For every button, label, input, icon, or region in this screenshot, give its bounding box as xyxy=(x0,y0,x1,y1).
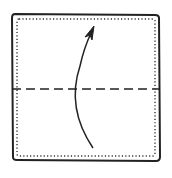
origami-diagram: Square paper with a horizontal valley-fo… xyxy=(0,0,172,178)
fold-arrow-curve xyxy=(75,33,93,148)
diagram-svg xyxy=(0,0,172,178)
